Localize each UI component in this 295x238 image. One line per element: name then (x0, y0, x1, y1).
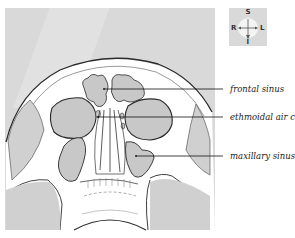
orientation-compass: S I R L (229, 8, 267, 46)
right-lower-region (6, 182, 60, 230)
compass-right-label: R (231, 25, 236, 32)
label-frontal-sinus: frontal sinus (230, 84, 284, 94)
compass-superior-label: S (246, 9, 251, 16)
left-orbit (125, 99, 172, 140)
compass-inferior-label: I (247, 39, 250, 46)
right-orbit (50, 98, 96, 139)
compass-left-label: L (260, 25, 264, 32)
label-ethmoidal-air-cell: ethmoidal air cell (230, 112, 295, 122)
label-maxillary-sinus: maxillary sinus (230, 151, 295, 161)
